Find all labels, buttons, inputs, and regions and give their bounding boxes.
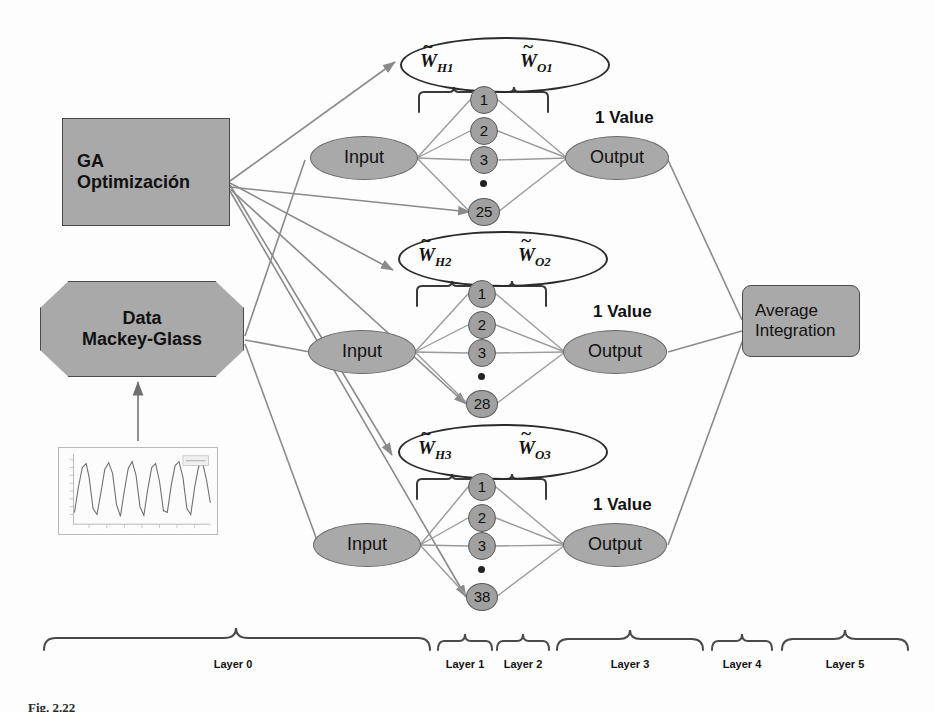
neuron-2-ellipsis [478,373,485,380]
layer-label-0: Layer 0 [198,658,268,670]
weight-hidden-label-1: WH1 [420,50,454,76]
neuron-2-3[interactable]: 3 [468,339,496,367]
neuron-1-last[interactable]: 25 [468,198,500,226]
input-ellipse-2[interactable]: Input [308,330,416,374]
value-label-3: 1 Value [593,495,652,515]
input-ellipse-1[interactable]: Input [310,136,418,180]
figure-caption: Fig. 2.22 [28,700,328,712]
timeseries-svg [59,448,217,534]
average-block-line1: Average [755,301,835,321]
weight-output-label-1: WO1 [520,50,553,76]
weight-hidden-label-3: WH3 [418,437,452,463]
layer-label-3: Layer 3 [597,658,663,670]
neuron-3-1[interactable]: 1 [468,473,496,501]
input-ellipse-3[interactable]: Input [313,523,421,567]
data-block-line2: Mackey-Glass [82,329,202,350]
neuron-3-last[interactable]: 38 [466,583,498,611]
average-block-line2: Integration [755,321,835,341]
mackey-glass-timeseries-plot [58,447,218,535]
output-ellipse-3[interactable]: Output [563,523,667,567]
ga-optimization-block[interactable]: GA Optimización [62,118,230,226]
output-ellipse-2[interactable]: Output [563,330,667,374]
neuron-1-2[interactable]: 2 [470,117,498,145]
neuron-3-3[interactable]: 3 [468,532,496,560]
layer-label-2: Layer 2 [490,658,556,670]
neuron-1-1[interactable]: 1 [470,86,498,114]
neuron-3-ellipsis [478,566,485,573]
weight-output-label-2: WO2 [518,244,551,270]
neuron-3-2[interactable]: 2 [468,504,496,532]
layer-label-1: Layer 1 [432,658,498,670]
output-ellipse-1[interactable]: Output [565,136,669,180]
ga-block-line2: Optimización [77,172,190,193]
neuron-2-1[interactable]: 1 [468,280,496,308]
neuron-1-3[interactable]: 3 [470,146,498,174]
value-label-1: 1 Value [595,108,654,128]
neuron-1-ellipsis [480,180,487,187]
neuron-2-2[interactable]: 2 [468,311,496,339]
weight-hidden-label-2: WH2 [418,244,452,270]
data-block-line1: Data [82,308,202,329]
average-integration-block[interactable]: Average Integration [742,285,860,357]
ga-block-line1: GA [77,151,190,172]
data-mackey-glass-block[interactable]: Data Mackey-Glass [40,281,244,377]
weight-output-label-3: WO3 [518,437,551,463]
neuron-2-last[interactable]: 28 [466,390,498,418]
value-label-2: 1 Value [593,302,652,322]
layer-label-5: Layer 5 [812,658,878,670]
layer-label-4: Layer 4 [709,658,775,670]
figure-canvas: GA Optimización Data Mackey-Glass [0,0,934,712]
